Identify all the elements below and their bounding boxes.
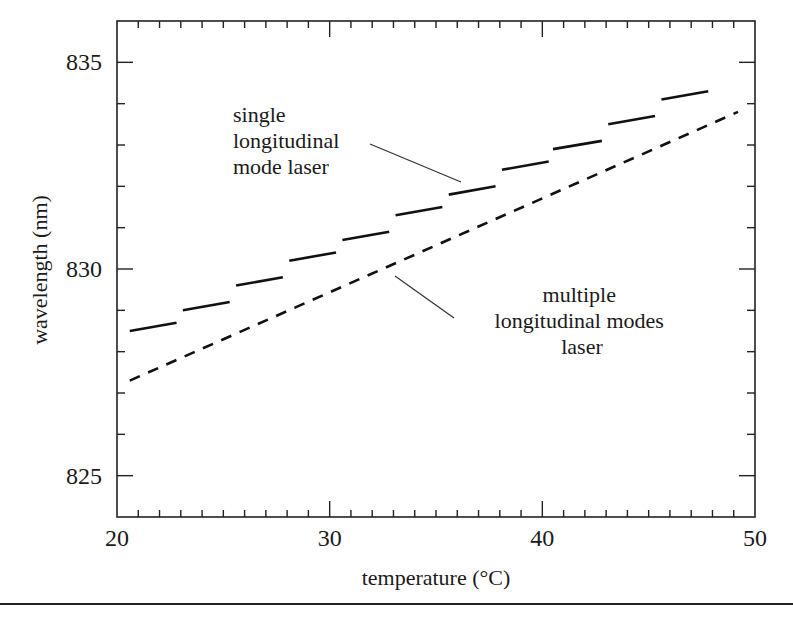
- series-single-longitudinal-mode: [130, 91, 708, 331]
- wavelength-vs-temperature-chart: 20304050 825830835 single longitudinal m…: [0, 0, 793, 619]
- annotation-single: single longitudinal mode laser: [233, 102, 345, 179]
- bottom-rule-divider: [0, 603, 793, 605]
- single-mode-segment: [183, 302, 230, 310]
- x-axis-label: temperature (°C): [362, 565, 511, 590]
- annotation-leader-single: [370, 144, 461, 182]
- y-axis-ticks: [117, 62, 755, 475]
- x-axis-tick-labels: 20304050: [105, 525, 767, 551]
- single-mode-segment: [553, 141, 602, 149]
- y-axis-tick-labels: 825830835: [66, 49, 102, 488]
- annotation-leader-multiple: [395, 276, 454, 318]
- single-mode-segment: [396, 207, 443, 215]
- single-mode-segment: [661, 91, 708, 99]
- single-mode-segment: [342, 232, 389, 240]
- single-mode-segment: [289, 252, 336, 260]
- x-tick-label: 50: [743, 525, 767, 551]
- single-mode-segment: [236, 277, 283, 285]
- y-axis-label: wavelength (nm): [27, 195, 52, 345]
- single-mode-segment: [449, 186, 496, 194]
- x-tick-label: 20: [105, 525, 129, 551]
- single-mode-segment: [608, 116, 655, 124]
- single-mode-segment: [502, 162, 549, 170]
- annotation-multiple: multiple longitudinal modes laser: [495, 282, 670, 359]
- y-tick-label: 825: [66, 463, 102, 489]
- x-axis-ticks: [138, 21, 733, 517]
- multi-mode-dashed-line: [130, 112, 738, 381]
- single-mode-segment: [130, 323, 177, 331]
- plot-border: [117, 21, 755, 517]
- y-tick-label: 830: [66, 256, 102, 282]
- plot-frame: [117, 21, 755, 517]
- x-tick-label: 40: [530, 525, 554, 551]
- x-tick-label: 30: [318, 525, 342, 551]
- series-multiple-longitudinal-modes: [130, 112, 738, 381]
- y-tick-label: 835: [66, 49, 102, 75]
